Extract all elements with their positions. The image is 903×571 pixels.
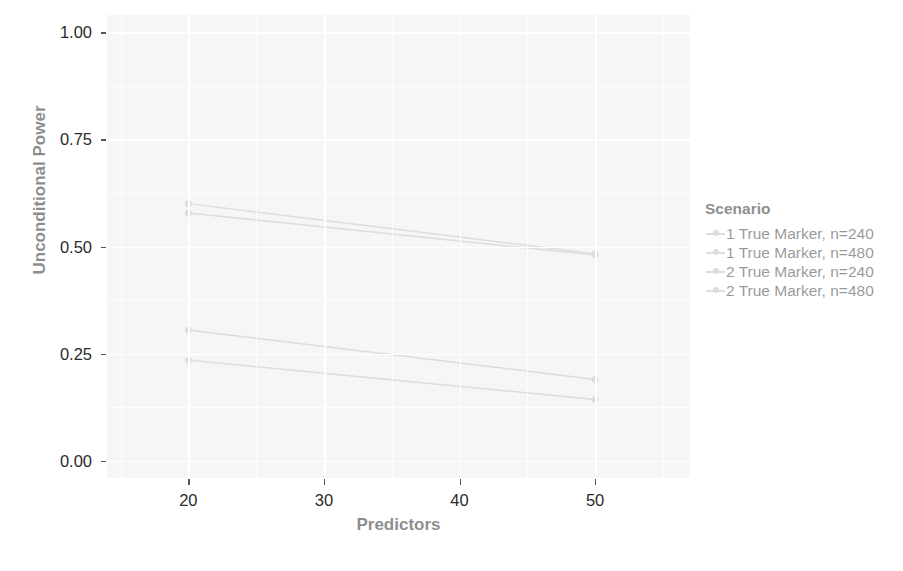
x-tick-label: 30 <box>294 492 354 509</box>
gridline-minor-horizontal <box>107 300 690 301</box>
x-tick-mark <box>188 479 189 485</box>
x-tick-mark <box>324 479 325 485</box>
legend-key-icon <box>705 281 726 300</box>
y-tick-mark <box>101 354 106 355</box>
legend-key-icon <box>705 243 726 262</box>
y-tick-label: 0.00 <box>30 453 92 470</box>
x-tick-label: 40 <box>430 492 490 509</box>
gridline-minor-horizontal <box>107 86 690 87</box>
y-tick-label: 1.00 <box>30 24 92 41</box>
x-tick-mark <box>595 479 596 485</box>
gridline-minor-horizontal <box>107 193 690 194</box>
legend-key-icon <box>705 262 726 281</box>
gridline-major-horizontal <box>107 139 690 141</box>
plot-panel <box>107 15 690 478</box>
legend-item-label: 1 True Marker, n=480 <box>726 245 874 261</box>
legend-item-label: 2 True Marker, n=480 <box>726 283 874 299</box>
y-axis-label: Unconditional Power <box>30 90 50 290</box>
x-tick-label: 20 <box>158 492 218 509</box>
y-tick-mark <box>101 32 106 33</box>
legend-item[interactable]: 2 True Marker, n=480 <box>705 281 895 300</box>
gridline-major-vertical <box>595 15 597 478</box>
y-tick-label: 0.75 <box>30 131 92 148</box>
gridline-major-horizontal <box>107 461 690 463</box>
gridline-major-horizontal <box>107 32 690 34</box>
gridline-major-horizontal <box>107 354 690 356</box>
gridline-major-vertical <box>188 15 190 478</box>
y-tick-mark <box>101 247 106 248</box>
y-tick-mark <box>101 139 106 140</box>
legend-item-label: 2 True Marker, n=240 <box>726 264 874 280</box>
gridline-major-vertical <box>460 15 462 478</box>
x-tick-mark <box>460 479 461 485</box>
legend: Scenario 1 True Marker, n=2401 True Mark… <box>705 200 895 300</box>
legend-item[interactable]: 1 True Marker, n=480 <box>705 243 895 262</box>
gridline-minor-horizontal <box>107 407 690 408</box>
y-tick-label: 0.50 <box>30 239 92 256</box>
legend-title: Scenario <box>705 200 895 217</box>
legend-item[interactable]: 2 True Marker, n=240 <box>705 262 895 281</box>
x-axis-label: Predictors <box>107 515 690 535</box>
chart-figure: Unconditional Power Predictors Scenario … <box>0 0 903 571</box>
gridline-major-vertical <box>324 15 326 478</box>
legend-item-label: 1 True Marker, n=240 <box>726 226 874 242</box>
y-tick-label: 0.25 <box>30 346 92 363</box>
y-tick-mark <box>101 461 106 462</box>
legend-items: 1 True Marker, n=2401 True Marker, n=480… <box>705 224 895 300</box>
legend-item[interactable]: 1 True Marker, n=240 <box>705 224 895 243</box>
gridline-major-horizontal <box>107 247 690 249</box>
x-tick-label: 50 <box>565 492 625 509</box>
legend-key-icon <box>705 224 726 243</box>
